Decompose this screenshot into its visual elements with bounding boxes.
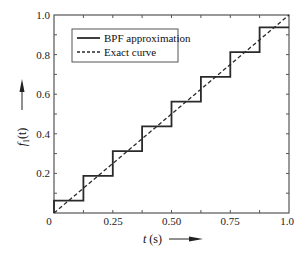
- y-axis-arrow-icon: [20, 79, 25, 92]
- x-tick-0-50: 0.50: [162, 215, 182, 227]
- svg-text:t (s): t (s): [143, 232, 162, 246]
- y-tick-0-2: 0.2: [36, 167, 50, 179]
- legend-bpf-label: BPF approximation: [104, 32, 191, 44]
- y-axis-label: f1(t): [15, 79, 31, 146]
- y-tick-0-4: 0.4: [36, 128, 50, 140]
- x-tick-origin: 0: [46, 215, 52, 227]
- y-tick-0-8: 0.8: [36, 49, 50, 61]
- chart: BPF approximation Exact curve 1.0 0.8 0.…: [0, 0, 306, 254]
- svg-text:f1(t): f1(t): [15, 128, 31, 147]
- x-axis-arrow-icon: [189, 237, 203, 242]
- y-axis-arg: (t): [15, 128, 29, 139]
- legend-exact-label: Exact curve: [104, 46, 156, 58]
- x-axis-unit: (s): [146, 232, 162, 246]
- x-tick-0-75: 0.75: [220, 215, 240, 227]
- x-tick-0-25: 0.25: [103, 215, 123, 227]
- x-tick-1-0: 1.0: [280, 215, 294, 227]
- y-tick-0-6: 0.6: [36, 88, 50, 100]
- legend: BPF approximation Exact curve: [72, 29, 191, 62]
- x-axis-label: t (s): [143, 232, 203, 246]
- y-tick-1-0: 1.0: [36, 9, 50, 21]
